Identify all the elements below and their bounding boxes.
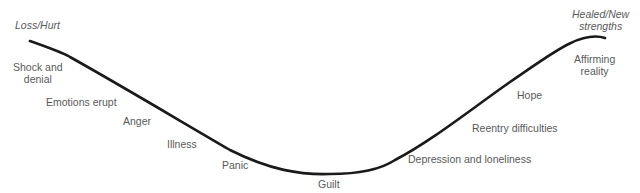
start-label: Loss/Hurt (15, 19, 60, 31)
end-label-line1: Healed/New (572, 8, 629, 20)
stage-affirming-reality: Affirming reality (574, 53, 615, 77)
stage-label-line1: Affirming (574, 53, 615, 65)
stage-panic: Panic (222, 159, 248, 171)
end-label: Healed/New strengths (572, 8, 629, 32)
stage-shock-denial: Shock and denial (13, 61, 63, 85)
stage-depression-loneliness: Depression and loneliness (408, 153, 531, 165)
end-label-line2: strengths (572, 20, 629, 32)
stage-label-line2: denial (13, 73, 63, 85)
stage-hope: Hope (517, 89, 542, 101)
stage-anger: Anger (123, 115, 151, 127)
stage-reentry-difficulties: Reentry difficulties (472, 122, 558, 134)
stage-label-line1: Shock and (13, 61, 63, 73)
stage-label-line2: reality (574, 65, 615, 77)
stage-illness: Illness (167, 138, 197, 150)
stage-guilt: Guilt (318, 178, 340, 190)
stage-emotions-erupt: Emotions erupt (46, 96, 117, 108)
